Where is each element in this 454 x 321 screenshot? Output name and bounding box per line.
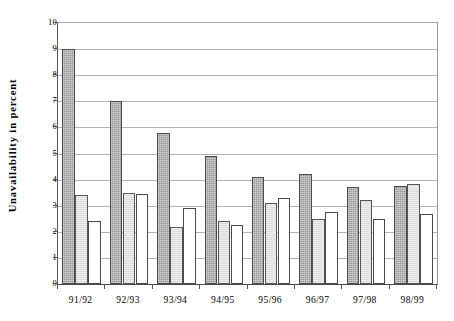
bar <box>205 156 218 284</box>
x-tick-label: 95/96 <box>258 295 282 305</box>
bar <box>252 177 265 284</box>
bar <box>231 225 244 284</box>
x-tick-label: 96/97 <box>306 295 330 305</box>
bar <box>62 49 75 284</box>
x-axis: 91/9292/9393/9494/9595/9696/9797/9898/99 <box>57 284 438 318</box>
x-tick-label: 94/95 <box>211 295 235 305</box>
bar <box>360 200 373 284</box>
x-tick-mark <box>389 284 390 289</box>
bar <box>136 194 149 284</box>
x-tick-mark <box>436 284 437 289</box>
x-tick-mark <box>247 284 248 289</box>
bar-group <box>342 23 389 284</box>
bar-group <box>153 23 200 284</box>
bar <box>420 214 433 284</box>
bar <box>88 221 101 284</box>
bar <box>312 219 325 284</box>
x-tick-mark <box>152 284 153 289</box>
bar <box>325 212 338 284</box>
bar <box>157 133 170 284</box>
x-tick-mark <box>341 284 342 289</box>
bar-group <box>390 23 437 284</box>
bar <box>265 203 278 284</box>
bars-layer <box>58 23 437 284</box>
bar-chart-figure: Unavailability in percent 012345678910 9… <box>0 0 454 321</box>
bar <box>170 227 183 284</box>
bar-group <box>248 23 295 284</box>
x-tick-mark <box>294 284 295 289</box>
bar <box>373 219 386 284</box>
bar <box>407 184 420 284</box>
bar-group <box>105 23 152 284</box>
bar <box>299 174 312 284</box>
bar <box>183 208 196 284</box>
x-tick-mark <box>104 284 105 289</box>
bar <box>394 186 407 284</box>
bar-group <box>200 23 247 284</box>
x-tick-label: 93/94 <box>164 295 188 305</box>
y-axis-title-text: Unavailability in percent <box>8 78 19 212</box>
bar <box>123 193 136 284</box>
bar-group <box>58 23 105 284</box>
bar <box>218 221 231 284</box>
bar <box>110 101 123 284</box>
x-tick-mark <box>199 284 200 289</box>
plot-area <box>57 22 438 285</box>
bar-group <box>295 23 342 284</box>
bar <box>278 198 291 284</box>
y-axis-ticks: 012345678910 <box>28 22 57 283</box>
x-tick-label: 92/93 <box>116 295 140 305</box>
y-axis-title: Unavailability in percent <box>0 0 26 290</box>
bar <box>75 195 88 284</box>
x-tick-label: 91/92 <box>69 295 93 305</box>
x-tick-mark <box>57 284 58 289</box>
x-tick-label: 97/98 <box>353 295 377 305</box>
bar <box>347 187 360 284</box>
x-tick-label: 98/99 <box>400 295 424 305</box>
